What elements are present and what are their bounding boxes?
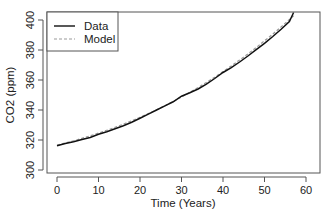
y-tick-label: 300 xyxy=(24,161,36,179)
y-tick-label: 360 xyxy=(24,71,36,89)
x-tick-label: 40 xyxy=(217,184,229,196)
y-tick-label: 320 xyxy=(24,131,36,149)
x-tick-label: 30 xyxy=(175,184,187,196)
y-axis: 300320340360380400 xyxy=(24,11,43,179)
legend: Data Model xyxy=(47,12,118,51)
x-tick-label: 20 xyxy=(134,184,146,196)
legend-model-label: Model xyxy=(84,33,115,45)
x-tick-label: 50 xyxy=(258,184,270,196)
x-tick-label: 60 xyxy=(300,184,312,196)
y-tick-label: 340 xyxy=(24,101,36,119)
co2-line-chart: 0102030405060 300320340360380400 Time (Y… xyxy=(0,0,336,217)
y-axis-title: CO2 (ppm) xyxy=(4,66,16,123)
y-tick-label: 380 xyxy=(24,41,36,59)
x-axis: 0102030405060 xyxy=(54,177,312,196)
y-tick-label: 400 xyxy=(24,11,36,29)
x-axis-title: Time (Years) xyxy=(151,197,216,209)
legend-data-label: Data xyxy=(84,20,109,32)
x-tick-label: 10 xyxy=(92,184,104,196)
x-tick-label: 0 xyxy=(54,184,60,196)
